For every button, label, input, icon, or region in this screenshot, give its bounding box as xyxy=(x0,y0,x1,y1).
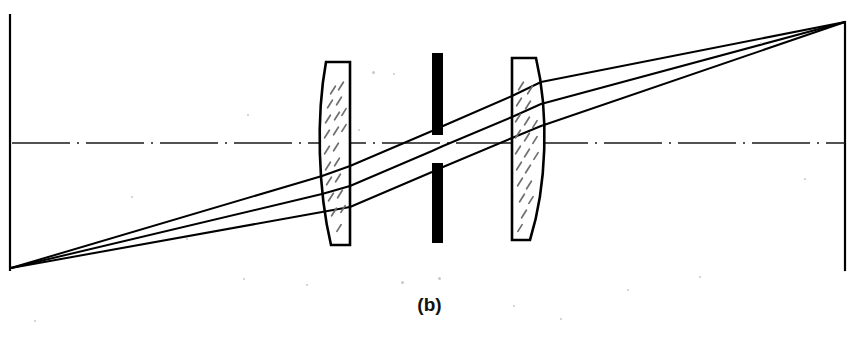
scan-speck xyxy=(560,318,562,320)
scan-speck xyxy=(358,129,360,131)
scan-speck xyxy=(34,320,36,322)
scan-speck xyxy=(699,276,701,278)
scan-speck xyxy=(306,284,308,286)
scan-speck xyxy=(186,238,188,240)
scan-speck xyxy=(131,196,133,198)
scan-speck xyxy=(627,289,629,291)
lens-hatching xyxy=(325,82,539,231)
scan-speck xyxy=(243,278,245,280)
scan-speck xyxy=(760,42,762,44)
scan-speck xyxy=(372,71,375,74)
lens-2-group xyxy=(512,58,544,240)
aperture-blade-upper xyxy=(432,53,443,135)
scan-speck xyxy=(438,277,441,280)
aperture-blade-lower xyxy=(432,163,443,243)
scan-speck xyxy=(804,178,806,180)
optics-figure: (b) xyxy=(0,0,859,346)
ray-bundle xyxy=(11,22,845,268)
ray-path xyxy=(11,22,845,268)
scan-speck xyxy=(247,114,249,116)
scan-speck xyxy=(401,281,404,284)
scan-speck xyxy=(393,73,395,75)
figure-caption: (b) xyxy=(0,294,859,316)
lens-2-outline xyxy=(512,58,544,240)
